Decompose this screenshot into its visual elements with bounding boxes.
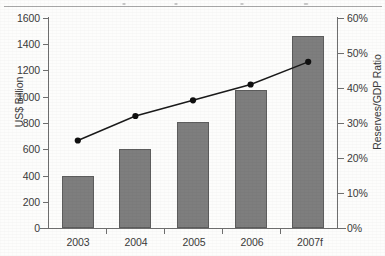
y-tick-left-1200: [43, 70, 49, 71]
x-tick-label-2005: 2005: [171, 236, 217, 248]
y-tick-label-left-1000: 1000: [0, 92, 40, 102]
x-tick-boundary-4: [280, 229, 281, 234]
y-tick-label-left-0: 0: [0, 223, 40, 233]
x-axis-line: [40, 228, 346, 229]
bar-2006: [235, 90, 267, 228]
y-tick-label-right-30: 30%: [347, 118, 381, 128]
y-tick-left-1000: [43, 97, 49, 98]
y-tick-left-400: [43, 176, 49, 177]
y-tick-left-1600: [43, 18, 49, 19]
y-tick-left-200: [43, 202, 49, 203]
x-tick-boundary-3: [222, 229, 223, 234]
y-tick-left-1400: [43, 44, 49, 45]
chart-figure: US$ Billion Reserves/GDP Ratio 1600 1400…: [0, 0, 385, 256]
y-tick-right-10: [338, 193, 344, 194]
bar-2003: [62, 176, 94, 229]
x-tick-boundary-1: [106, 229, 107, 234]
y-tick-label-right-0: 0%: [347, 223, 381, 233]
y-tick-label-right-60: 60%: [347, 13, 381, 23]
y-tick-label-left-1200: 1200: [0, 65, 40, 75]
y-tick-label-left-200: 200: [0, 197, 40, 207]
y-tick-label-left-1400: 1400: [0, 39, 40, 49]
y-tick-label-right-20: 20%: [347, 153, 381, 163]
y-tick-right-60: [338, 18, 344, 19]
x-tick-boundary-2: [164, 229, 165, 234]
x-tick-label-2003: 2003: [55, 236, 101, 248]
y-tick-right-30: [338, 123, 344, 124]
page-rule-divider: [4, 6, 382, 7]
bar-2005: [177, 122, 209, 228]
ratio-marker-2003: [75, 137, 81, 143]
y-tick-left-600: [43, 149, 49, 150]
x-tick-label-2007f: 2007f: [287, 236, 333, 248]
ratio-marker-2006: [248, 81, 254, 87]
y-tick-right-0: [338, 228, 344, 229]
cropped-caption-remnant: [110, 0, 340, 5]
x-tick-label-2006: 2006: [229, 236, 275, 248]
x-tick-label-2004: 2004: [113, 236, 159, 248]
y-tick-left-800: [43, 123, 49, 124]
y-tick-label-left-800: 800: [0, 118, 40, 128]
y-tick-label-right-40: 40%: [347, 83, 381, 93]
y-tick-label-left-400: 400: [0, 171, 40, 181]
y-tick-left-0: [43, 228, 49, 229]
y-tick-label-left-1600: 1600: [0, 13, 40, 23]
y-tick-label-right-50: 50%: [347, 48, 381, 58]
y-tick-right-20: [338, 158, 344, 159]
bar-2004: [119, 149, 151, 228]
bar-2007f: [292, 36, 324, 228]
y-tick-right-50: [338, 53, 344, 54]
y-tick-right-40: [338, 88, 344, 89]
ratio-marker-2004: [132, 113, 138, 119]
y-tick-label-left-600: 600: [0, 144, 40, 154]
ratio-marker-2005: [190, 97, 196, 103]
y-tick-label-right-10: 10%: [347, 188, 381, 198]
